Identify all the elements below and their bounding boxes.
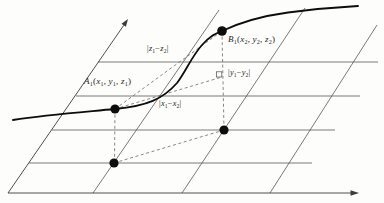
label-delta-x: |x1−x2| [159,99,181,109]
x-axis-arrowhead [351,190,360,195]
label-point-a1: A1(x1, y1, z1) [84,76,131,87]
label-delta-z: |z1−z2| [147,44,169,54]
dot-b0 [219,125,228,134]
space-curve [13,6,358,120]
diagram-svg [0,0,384,203]
figure-canvas: A1(x1, y1, z1) B1(x2, y2, z2) |z1−z2| |y… [0,0,384,203]
space-chord-a1-b1 [115,31,222,109]
label-point-b1: B1(x2, y2, z2) [228,34,275,45]
plane-chord-a0-b0 [114,130,224,163]
right-angle-mark [217,72,222,77]
label-delta-y: |y1−y2| [228,68,250,78]
dot-a1 [110,104,119,113]
dot-b1 [217,26,227,36]
projection-a1-a0 [115,109,116,163]
grid-s-3 [270,25,377,193]
projection-b1-b0 [222,31,224,130]
y-axis-arrowhead [122,19,129,27]
dot-a0 [109,158,118,167]
